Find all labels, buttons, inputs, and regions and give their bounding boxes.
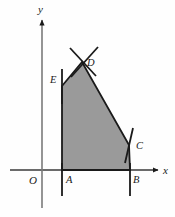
- shaded-polygon-region: [62, 62, 130, 170]
- vertex-label-d: D: [86, 57, 95, 68]
- geometry-figure: y x O ABCDE: [0, 0, 175, 217]
- vertex-label-a: A: [65, 174, 73, 185]
- vertex-label-e: E: [49, 74, 57, 85]
- geometry-canvas: y x O ABCDE: [0, 0, 175, 217]
- vertex-label-c: C: [136, 140, 144, 151]
- origin-label: O: [29, 174, 37, 186]
- y-axis-label: y: [37, 3, 43, 15]
- vertex-label-b: B: [133, 174, 140, 185]
- x-axis-label: x: [162, 164, 168, 176]
